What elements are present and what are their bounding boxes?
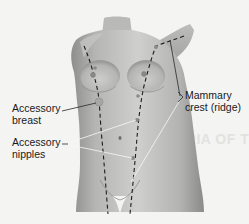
right-breast	[127, 60, 165, 92]
label-mammary-crest-line1: Mammary	[185, 90, 241, 102]
left-breast	[80, 60, 120, 92]
nipple-right	[142, 72, 147, 77]
navel	[119, 136, 122, 140]
label-mammary-crest: Mammary crest (ridge)	[185, 90, 241, 113]
accessory-breast-mound	[95, 98, 103, 106]
label-accessory-breast: Accessory breast	[12, 103, 60, 126]
nipple-left-2	[93, 66, 97, 70]
label-accessory-nipples-line1: Accessory	[12, 137, 60, 149]
label-accessory-breast-line2: breast	[12, 115, 60, 127]
label-mammary-crest-line2: crest (ridge)	[185, 102, 241, 114]
nipple-left	[91, 73, 96, 78]
label-accessory-breast-line1: Accessory	[12, 103, 60, 115]
label-accessory-nipples-line2: nipples	[12, 149, 60, 161]
nipple-right-upper	[154, 45, 158, 49]
accessory-nipple-right-1	[136, 94, 140, 98]
label-accessory-nipples: Accessory nipples	[12, 137, 60, 160]
